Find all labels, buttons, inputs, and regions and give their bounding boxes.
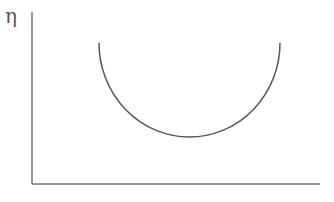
u-curve	[99, 43, 280, 137]
diagram-canvas	[0, 0, 334, 202]
